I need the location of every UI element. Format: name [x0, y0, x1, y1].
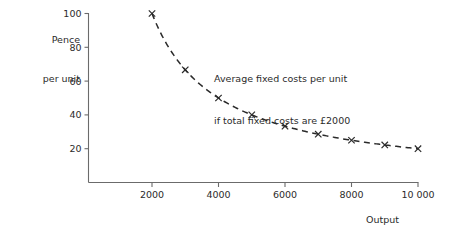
x-tick-label-2000: 2000 — [140, 189, 164, 200]
x-tick-label-8000: 8000 — [339, 189, 363, 200]
data-point-marker — [415, 146, 421, 152]
afc-chart: Pence per unit Output Average fixed cost… — [0, 0, 450, 238]
afc-curve-line — [152, 14, 418, 149]
x-tick-label-10000: 10 000 — [401, 189, 434, 200]
axes — [89, 13, 419, 183]
data-point-marker — [249, 112, 255, 118]
x-axis-ticks: 200040006000800010 000 — [140, 183, 435, 201]
y-tick-label-80: 80 — [69, 42, 81, 53]
y-axis-ticks: 20406080100 — [63, 8, 88, 154]
data-point-markers — [149, 10, 421, 152]
x-tick-label-4000: 4000 — [206, 189, 230, 200]
y-tick-label-100: 100 — [63, 8, 81, 19]
data-point-marker — [215, 95, 221, 101]
plot-area: 20406080100 200040006000800010 000 — [0, 0, 450, 238]
data-point-marker — [149, 10, 155, 16]
y-tick-label-40: 40 — [69, 109, 81, 120]
y-tick-label-60: 60 — [69, 76, 81, 87]
y-tick-label-20: 20 — [69, 143, 81, 154]
data-point-marker — [182, 67, 188, 73]
x-tick-label-6000: 6000 — [273, 189, 297, 200]
